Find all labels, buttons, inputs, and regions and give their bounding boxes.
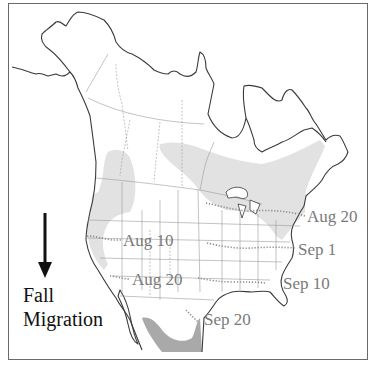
legend-line-1: Fall	[23, 284, 55, 306]
date-label: Sep 1	[298, 240, 336, 259]
date-label: Sep 10	[283, 274, 330, 293]
date-label: Aug 20	[132, 270, 183, 289]
map-frame	[9, 4, 368, 360]
date-label: Aug 20	[307, 207, 358, 226]
date-label: Aug 10	[123, 231, 174, 250]
north-america-map: Aug 20 Aug 10 Sep 1 Aug 20 Sep 10 Sep 20…	[0, 0, 378, 374]
date-label: Sep 20	[204, 310, 251, 329]
legend-line-2: Migration	[23, 308, 103, 331]
